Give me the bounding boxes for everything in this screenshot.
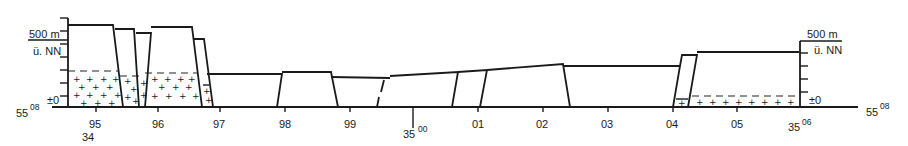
svg-text:+: + <box>94 98 102 108</box>
svg-text:+: + <box>761 97 769 107</box>
svg-text:+: + <box>787 97 795 107</box>
svg-text:+: + <box>205 95 213 105</box>
tick-label-99: 99 <box>344 118 356 130</box>
svg-text:+: + <box>774 97 782 107</box>
tick-label-04: 04 <box>666 118 678 130</box>
terrain-profile <box>68 25 799 107</box>
left-northing-sup: 08 <box>30 102 40 112</box>
tick-label-98: 98 <box>279 118 291 130</box>
right-northing-sup: 08 <box>880 101 890 111</box>
tick-label-96: 96 <box>152 118 164 130</box>
svg-text:+: + <box>678 98 686 108</box>
right-zero-label: ±0 <box>809 94 821 106</box>
svg-text:+: + <box>748 97 756 107</box>
svg-text:+: + <box>151 91 159 101</box>
svg-text:+: + <box>124 92 132 102</box>
svg-text:+: + <box>80 98 88 108</box>
tick-label-00: 00 <box>418 124 428 134</box>
svg-text:+: + <box>179 91 187 101</box>
tick-prefix-34: 34 <box>82 131 94 143</box>
left-northing-label: 55 <box>16 107 28 119</box>
left-500m-label: 500 m <box>29 28 60 40</box>
tick-label-06: 06 <box>802 117 812 127</box>
svg-text:+: + <box>709 97 717 107</box>
tick-label-03: 03 <box>601 118 613 130</box>
svg-text:+: + <box>132 96 140 106</box>
svg-text:+: + <box>140 90 148 100</box>
tick-label-01: 01 <box>472 118 484 130</box>
tick-label-97: 97 <box>213 118 225 130</box>
svg-text:+: + <box>165 91 173 101</box>
tick-prefix-35-end: 35 <box>788 121 800 133</box>
tick-label-95: 95 <box>89 118 101 130</box>
left-zero-label: ±0 <box>47 94 59 106</box>
svg-text:+: + <box>735 97 743 107</box>
tick-prefix-35: 35 <box>403 128 415 140</box>
tick-label-05: 05 <box>731 118 743 130</box>
svg-text:+: + <box>108 98 116 108</box>
svg-text:+: + <box>192 91 200 101</box>
svg-text:+: + <box>722 97 730 107</box>
right-datum-label: ü. NN <box>814 44 842 56</box>
x-axis-ticks <box>96 107 737 128</box>
tick-label-02: 02 <box>536 118 548 130</box>
cross-section-diagram: 500 m ü. NN ±0 55 08 95 34 96 97 98 99 3… <box>0 0 908 146</box>
right-northing-label: 55 <box>866 106 878 118</box>
crystalline-basement-pattern: ++++ +++ ++++ +++ ++++ ++ ++++ +++ ++++ … <box>73 74 795 108</box>
right-500m-label: 500 m <box>807 28 838 40</box>
svg-text:+: + <box>696 97 704 107</box>
svg-text:+: + <box>140 78 148 88</box>
left-datum-label: ü. NN <box>33 45 61 57</box>
